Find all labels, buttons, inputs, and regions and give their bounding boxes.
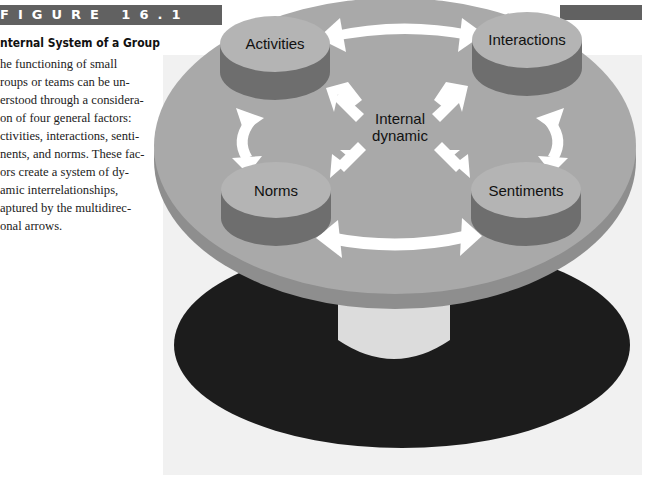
node-label-sentiments: Sentiments [488,182,563,199]
node-label-norms: Norms [254,182,298,199]
node-norms: Norms [221,162,331,246]
node-activities: Activities [220,16,330,100]
node-interactions: Interactions [472,12,582,96]
internal-system-diagram: Activities Interactions Norms Sentiments… [0,0,660,485]
node-sentiments: Sentiments [471,162,581,246]
node-label-interactions: Interactions [488,31,566,48]
node-label-activities: Activities [245,35,304,52]
center-label-line2: dynamic [372,127,428,144]
center-label-line1: Internal [375,110,425,127]
